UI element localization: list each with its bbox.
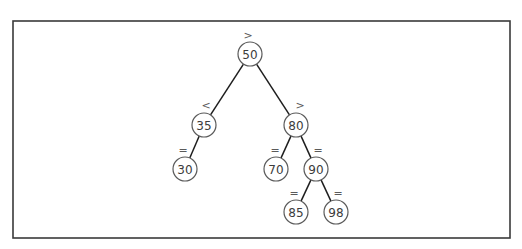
node-value: 85: [288, 206, 303, 220]
comparison-label: <: [201, 99, 210, 112]
node-value: 98: [328, 206, 343, 220]
node-value: 35: [196, 119, 211, 133]
comparison-label: =: [270, 144, 279, 157]
comparison-label: >: [243, 29, 252, 42]
node-value: 30: [177, 163, 192, 177]
node-value: 90: [308, 163, 323, 177]
comparison-label: =: [289, 187, 298, 200]
node-value: 70: [268, 163, 283, 177]
node-value: 50: [242, 48, 257, 62]
comparison-label: =: [333, 187, 342, 200]
comparison-label: =: [313, 144, 322, 157]
comparison-label: =: [178, 144, 187, 157]
node-value: 80: [288, 119, 303, 133]
tree-diagram: 50>35<80>30=70=90=85=98=: [0, 0, 522, 249]
comparison-label: >: [295, 99, 304, 112]
